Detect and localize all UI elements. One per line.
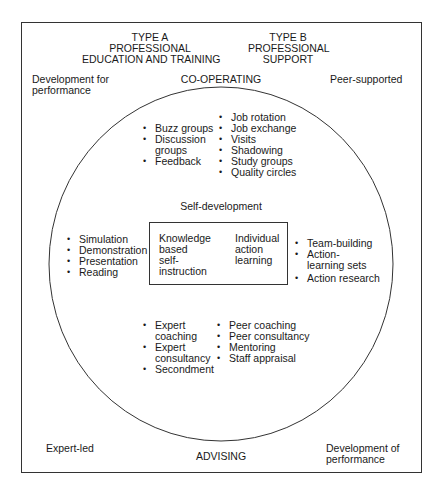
corner-top-right-label: Peer-supported [330,74,402,85]
list-right: Team-building Action-learning sets Actio… [295,238,380,284]
list-item: Feedback [143,156,218,167]
list-bottom-right: Peer coaching Peer consultancy Mentoring… [217,320,310,364]
corner-bottom-right-line2: performance [326,454,400,465]
list-item: Quality circles [219,167,296,178]
corner-bottom-left-label: Expert-led [46,443,94,454]
type-a-heading: TYPE A PROFESSIONAL EDUCATION AND TRAINI… [82,32,218,65]
list-bottom-left: Expert coaching Expert consultancy Secon… [143,320,215,375]
list-item: Staff appraisal [217,353,310,364]
type-b-heading: TYPE B PROFESSIONAL SUPPORT [248,32,328,65]
list-item: Expert coaching [143,320,215,342]
corner-bottom-right-label: Development of performance [326,443,400,465]
list-item: Secondment [143,364,215,375]
type-b-line3: SUPPORT [248,54,328,65]
corner-top-left-label: Development for performance [32,74,109,96]
list-top-right: Job rotation Job exchange Visits Shadowi… [219,112,296,178]
type-a-line3: EDUCATION AND TRAINING [82,54,218,65]
list-item: Reading [67,267,147,278]
list-item: Action research [295,273,380,284]
list-item: Expert consultancy [143,342,215,364]
inner-left-line4: instruction [159,266,211,277]
inner-box-left-text: Knowledge based self- instruction [159,233,211,277]
axis-label-self-development: Self-development [168,201,274,212]
list-left: Simulation Demonstration Presentation Re… [67,234,147,278]
list-top-left: Buzz groups Discussion groups Feedback [143,123,218,167]
list-item: Discussion groups [143,134,218,156]
list-item: Action-learning sets [295,249,380,271]
inner-box-right-text: Individual action learning [235,233,279,266]
inner-right-line3: learning [235,255,279,266]
axis-label-advising: ADVISING [181,451,261,462]
corner-top-left-line2: performance [32,85,109,96]
axis-label-cooperating: CO-OPERATING [171,74,271,85]
